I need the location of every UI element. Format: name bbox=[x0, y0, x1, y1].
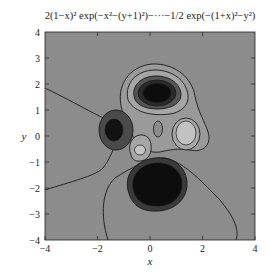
plot-area bbox=[45, 32, 255, 240]
contour-right-trough bbox=[176, 121, 196, 145]
contour-left-peak bbox=[105, 119, 123, 141]
y-tick-label: −4 bbox=[29, 235, 40, 246]
chart-title: 2(1−x)² exp(−x²−(y+1)²)−···−1/2 exp(−(1+… bbox=[45, 10, 256, 22]
y-tick-label: 4 bbox=[35, 27, 40, 38]
x-tick-label: −2 bbox=[92, 243, 103, 254]
x-tick-label: 4 bbox=[253, 243, 258, 254]
x-axis-label: x bbox=[147, 255, 153, 267]
contour-center-small bbox=[154, 121, 163, 137]
y-tick-label: −1 bbox=[29, 157, 40, 168]
y-tick-label: −3 bbox=[29, 209, 40, 220]
x-tick-label: 0 bbox=[148, 243, 153, 254]
contour-upper-peak bbox=[143, 84, 171, 103]
y-tick-label: 3 bbox=[35, 53, 40, 64]
y-tick-label: 2 bbox=[35, 79, 40, 90]
x-tick-label: 2 bbox=[200, 243, 205, 254]
contour-centerleft-trough bbox=[135, 145, 146, 155]
y-tick-label: −2 bbox=[29, 183, 40, 194]
contour-lower-peak bbox=[133, 163, 182, 206]
x-tick-label: −4 bbox=[40, 243, 51, 254]
contour-figure: 2(1−x)² exp(−x²−(y+1)²)−···−1/2 exp(−(1+… bbox=[0, 0, 271, 279]
y-tick-label: 0 bbox=[35, 131, 40, 142]
y-tick-label: 1 bbox=[35, 105, 40, 116]
y-axis-label: y bbox=[21, 130, 27, 142]
